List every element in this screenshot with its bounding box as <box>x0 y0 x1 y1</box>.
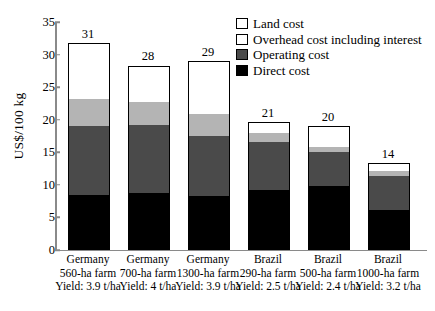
bar-value-label: 29 <box>188 46 228 59</box>
bar-segment-overhead[interactable] <box>69 99 109 126</box>
stacked-bar[interactable] <box>368 163 410 250</box>
bar-segment-operating[interactable] <box>369 176 409 210</box>
y-tick-label: 15 <box>29 146 55 159</box>
bar-segment-direct[interactable] <box>309 186 349 249</box>
bar-segment-operating[interactable] <box>189 136 229 196</box>
y-tick-label: 5 <box>29 211 55 224</box>
category-label-line-1: Brazil <box>345 253 431 267</box>
bar-segment-land[interactable] <box>249 123 289 133</box>
y-tick-mark <box>55 119 60 121</box>
bar-segment-overhead[interactable] <box>129 102 169 125</box>
bar-segment-direct[interactable] <box>249 190 289 249</box>
y-axis-title: US$/100 kg <box>11 61 27 191</box>
bar-segment-direct[interactable] <box>69 195 109 249</box>
bar-segment-operating[interactable] <box>249 142 289 190</box>
bar-value-label: 21 <box>248 107 288 120</box>
y-tick-label: 35 <box>29 16 55 29</box>
bar-group: 29 <box>188 61 228 250</box>
bar-group: 14 <box>368 163 408 250</box>
legend-item[interactable]: Operating cost <box>236 47 422 63</box>
y-tick-mark <box>55 152 60 154</box>
legend-swatch-icon <box>236 34 248 45</box>
bar-segment-direct[interactable] <box>189 196 229 249</box>
bar-group: 21 <box>248 122 288 250</box>
y-tick-label: 10 <box>29 179 55 192</box>
chart-legend: Land costOverhead cost including interes… <box>236 16 422 78</box>
y-tick-mark <box>55 249 60 251</box>
category-label-line-2: 1000-ha farm <box>345 267 431 281</box>
y-tick-label: 20 <box>29 113 55 126</box>
legend-item[interactable]: Land cost <box>236 16 422 32</box>
bar-segment-land[interactable] <box>129 67 169 102</box>
y-tick-mark <box>55 21 60 23</box>
stacked-bar[interactable] <box>68 43 110 250</box>
legend-label: Operating cost <box>253 48 329 61</box>
bar-segment-direct[interactable] <box>129 193 169 249</box>
bar-group: 28 <box>128 66 168 250</box>
y-tick-mark <box>55 86 60 88</box>
stacked-bar[interactable] <box>308 126 350 250</box>
bar-group: 31 <box>68 43 108 250</box>
stacked-bar[interactable] <box>128 66 170 250</box>
bar-segment-operating[interactable] <box>69 126 109 195</box>
legend-swatch-icon <box>236 49 248 60</box>
stacked-bar[interactable] <box>188 61 230 250</box>
legend-swatch-icon <box>236 18 248 29</box>
bar-segment-direct[interactable] <box>369 210 409 249</box>
legend-swatch-icon <box>236 65 248 76</box>
bar-segment-land[interactable] <box>69 44 109 99</box>
bar-segment-land[interactable] <box>309 127 349 147</box>
bar-segment-overhead[interactable] <box>189 114 229 136</box>
stacked-bar-chart: US$/100 kg 05101520253035 312829212014 G… <box>0 0 435 311</box>
y-tick-mark <box>55 184 60 186</box>
legend-label: Direct cost <box>253 64 310 77</box>
y-tick-label: 30 <box>29 48 55 61</box>
bar-value-label: 14 <box>368 148 408 161</box>
bar-value-label: 20 <box>308 111 348 124</box>
legend-label: Overhead cost including interest <box>253 33 422 46</box>
y-tick-label: 25 <box>29 81 55 94</box>
bar-segment-overhead[interactable] <box>249 133 289 142</box>
stacked-bar[interactable] <box>248 122 290 250</box>
category-label: Brazil1000-ha farmYield: 3.2 t/ha <box>345 253 431 294</box>
category-label-line-3: Yield: 3.2 t/ha <box>345 280 431 294</box>
bar-value-label: 31 <box>68 28 108 41</box>
legend-item[interactable]: Direct cost <box>236 63 422 79</box>
bar-group: 20 <box>308 126 348 250</box>
legend-label: Land cost <box>253 17 304 30</box>
y-tick-mark <box>55 217 60 219</box>
bar-segment-operating[interactable] <box>309 152 349 187</box>
bar-segment-operating[interactable] <box>129 125 169 193</box>
bar-segment-land[interactable] <box>189 62 229 113</box>
y-tick-mark <box>55 54 60 56</box>
legend-item[interactable]: Overhead cost including interest <box>236 32 422 48</box>
bar-value-label: 28 <box>128 50 168 63</box>
